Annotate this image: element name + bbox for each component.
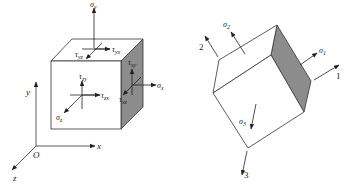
axis-2-label: 2 xyxy=(199,42,204,52)
sigma-x-label: σx xyxy=(157,81,164,91)
sigma-2-label: σ2 xyxy=(223,20,230,30)
z-axis-label: z xyxy=(12,173,17,183)
rotated-cube xyxy=(213,25,311,148)
sigma-1-label: σ1 xyxy=(319,46,326,56)
right-principal-stress-diagram: 2 σ2 σ1 1 σ3 3 xyxy=(199,20,341,180)
stress-diagrams: y x z O σy τyx τyz τzy τzx σz xyxy=(0,0,347,185)
x-axis-label: x xyxy=(96,141,101,151)
stress-cube xyxy=(51,39,143,129)
sigma-y-label: σy xyxy=(90,0,97,10)
axis-1-label: 1 xyxy=(336,71,341,81)
sigma-1-arrow xyxy=(300,53,317,65)
y-axis-label: y xyxy=(25,87,30,97)
origin-label: O xyxy=(33,150,40,160)
axis-3-label: 3 xyxy=(244,170,249,180)
left-stress-cube-diagram: y x z O σy τyx τyz τzy τzx σz xyxy=(12,0,164,183)
axis-2-arrow xyxy=(205,36,218,57)
